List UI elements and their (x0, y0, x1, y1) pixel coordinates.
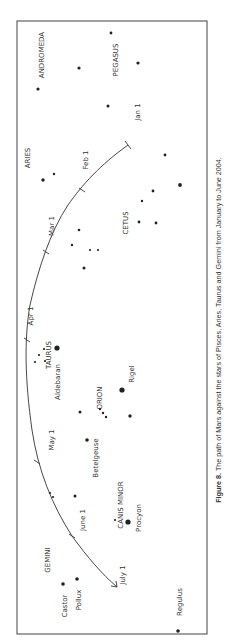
star-dot (136, 61, 139, 64)
date-label-june-1: June 1 (79, 509, 87, 532)
star-dot (105, 416, 107, 418)
star-dot (102, 412, 104, 414)
star-dot (77, 66, 80, 69)
figure-caption: Figure 8. The path of Mars against the s… (214, 157, 223, 503)
star-castor-label: Castor (61, 595, 69, 618)
star-procyon-label: Procyon (135, 504, 143, 532)
star-dot (83, 267, 86, 270)
star-rigel-label: Rigel (128, 365, 136, 383)
star-regulus-dot (176, 629, 180, 633)
constellation-gemini-label: GEMINI (44, 547, 52, 572)
star-regulus-label: Regulus (176, 588, 184, 616)
date-tick (69, 534, 75, 538)
star-aldebaran-dot (54, 345, 59, 350)
constellation-aries-label: ARIES (24, 147, 32, 168)
star-aldebaran-label: Aldebaran (54, 364, 62, 400)
star-dot (110, 32, 113, 35)
star-dot (36, 87, 39, 90)
mars-path-line (26, 145, 128, 587)
date-label-july-1: July 1 (119, 565, 127, 585)
star-dot (128, 414, 131, 417)
star-rigel-dot (119, 387, 124, 392)
constellation-labels: ANDROMEDAPEGASUSARIESCETUSTAURUSORIONCAN… (24, 32, 130, 573)
date-label-mar-1: Mar 1 (48, 216, 56, 236)
star-field (34, 32, 182, 522)
star-betelgeuse-dot (85, 438, 89, 442)
date-label-may-1: May 1 (48, 429, 56, 450)
caption-text: The path of Mars against the stars of Pi… (214, 157, 223, 473)
star-procyon-dot (125, 519, 130, 524)
star-dot (155, 222, 158, 225)
star-dot (114, 519, 116, 521)
constellation-taurus-label: TAURUS (45, 340, 53, 370)
star-dot (107, 105, 110, 108)
star-dot (53, 173, 55, 175)
date-label-jan-1: Jan 1 (134, 103, 142, 121)
chart-frame (17, 21, 207, 634)
star-dot (34, 361, 36, 363)
constellation-andromeda-label: ANDROMEDA (38, 32, 46, 79)
mars-path-star-chart: Jan 1Feb 1Mar 1Apr 1May 1June 1July 1 Al… (0, 0, 227, 640)
star-dot (79, 411, 82, 414)
star-dot (74, 495, 77, 498)
star-dot (41, 178, 44, 181)
star-pollux-dot (75, 577, 79, 581)
star-dot (38, 354, 40, 356)
caption-label: Figure 8. (214, 473, 223, 503)
star-pollux-label: Pollux (75, 590, 83, 611)
date-label-feb-1: Feb 1 (82, 150, 90, 169)
star-betelgeuse-label: Betelgeuse (92, 438, 100, 477)
star-dot (152, 190, 155, 193)
date-tick-start (125, 141, 131, 149)
constellation-cetus-label: CETUS (122, 211, 130, 235)
star-dot (89, 249, 91, 251)
star-dot (178, 183, 182, 187)
star-dot (141, 200, 143, 202)
star-dot (52, 496, 54, 498)
star-dot (138, 221, 141, 224)
constellation-pegasus-label: PEGASUS (112, 43, 120, 76)
star-dot (164, 154, 167, 157)
star-dot (97, 249, 99, 251)
star-castor-dot (61, 582, 65, 586)
mars-date-ticks (24, 141, 131, 538)
star-dot (71, 244, 73, 246)
constellation-orion-label: ORION (96, 386, 104, 409)
date-label-apr-1: Apr 1 (27, 307, 35, 326)
constellation-canis-minor-label: CANIS MINOR (117, 481, 125, 528)
star-dot (49, 492, 51, 494)
date-tick (24, 338, 30, 342)
star-dot (78, 229, 81, 232)
